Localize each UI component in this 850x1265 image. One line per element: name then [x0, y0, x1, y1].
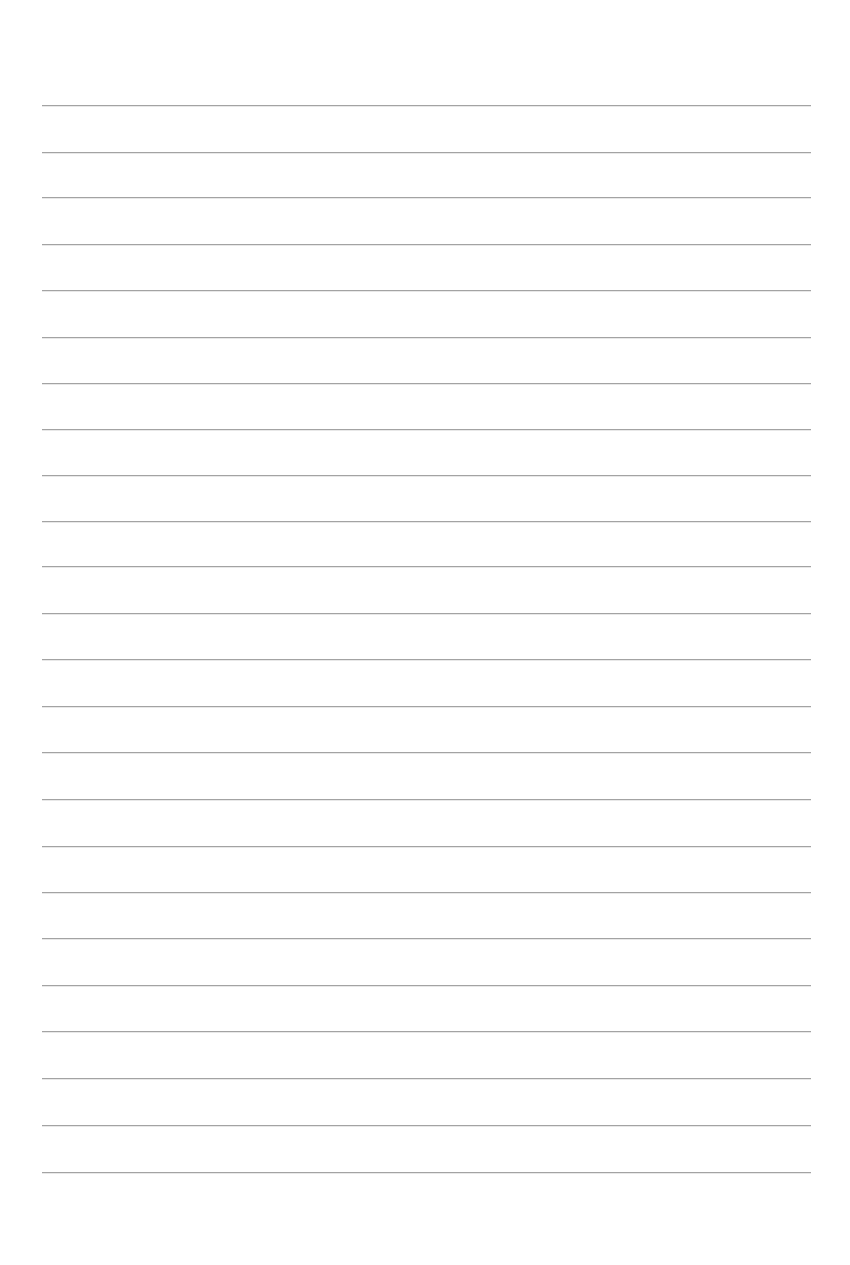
ruled-line	[42, 337, 811, 338]
ruled-line	[42, 659, 811, 660]
ruled-line	[42, 244, 811, 245]
ruled-line	[42, 105, 811, 106]
ruled-line	[42, 383, 811, 384]
ruled-line	[42, 566, 811, 567]
ruled-line	[42, 892, 811, 893]
ruled-line	[42, 706, 811, 707]
ruled-line	[42, 799, 811, 800]
ruled-line	[42, 1078, 811, 1079]
ruled-line	[42, 938, 811, 939]
ruled-line	[42, 846, 811, 847]
lined-paper-sheet	[0, 0, 850, 1265]
ruled-line	[42, 475, 811, 476]
ruled-line	[42, 752, 811, 753]
ruled-line	[42, 1125, 811, 1126]
ruled-line	[42, 1172, 811, 1173]
ruled-line	[42, 152, 811, 153]
ruled-line	[42, 290, 811, 291]
ruled-line	[42, 429, 811, 430]
ruled-line	[42, 521, 811, 522]
ruled-line	[42, 1031, 811, 1032]
ruled-line	[42, 985, 811, 986]
ruled-line	[42, 613, 811, 614]
ruled-line	[42, 197, 811, 198]
